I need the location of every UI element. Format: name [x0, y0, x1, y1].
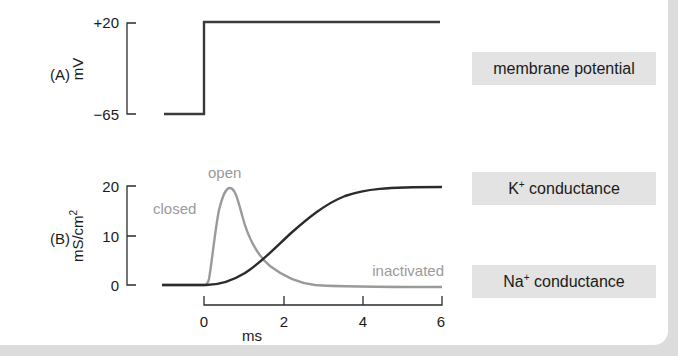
ytick-plus20: +20 [94, 14, 119, 31]
xtick-6: 6 [437, 313, 445, 330]
xtick-2: 2 [280, 313, 288, 330]
membrane-potential-trace [164, 22, 440, 114]
figure-card: (A) mV +20 −65 (B) mS/cm2 20 10 0 0 2 4 … [0, 0, 668, 345]
panel-b-letter: (B) [50, 230, 70, 247]
ytick-minus65: −65 [94, 106, 119, 123]
xtick-0: 0 [200, 313, 208, 330]
legend-membrane-potential: membrane potential [472, 52, 656, 85]
panel-b-ylabel: mS/cm2 [68, 209, 86, 262]
panel-b: (B) mS/cm2 20 10 0 0 2 4 6 ms closed ope… [50, 164, 445, 344]
ytick-0: 0 [111, 277, 119, 294]
legend-k-conductance: K+ conductance [472, 172, 656, 205]
panel-a: (A) mV +20 −65 [50, 14, 440, 123]
annotation-open: open [208, 164, 241, 181]
legend-na-conductance: Na+ conductance [472, 265, 656, 298]
panel-b-x-axis [204, 296, 442, 305]
panel-a-y-axis [127, 23, 136, 114]
x-axis-label: ms [242, 327, 262, 344]
panel-b-y-axis [127, 186, 136, 285]
ytick-20: 20 [102, 178, 119, 195]
xtick-4: 4 [359, 313, 367, 330]
annotation-inactivated: inactivated [372, 262, 444, 279]
annotation-closed: closed [153, 200, 196, 217]
panel-a-ylabel: mV [69, 58, 86, 81]
ytick-10: 10 [102, 228, 119, 245]
panel-a-letter: (A) [50, 66, 70, 83]
